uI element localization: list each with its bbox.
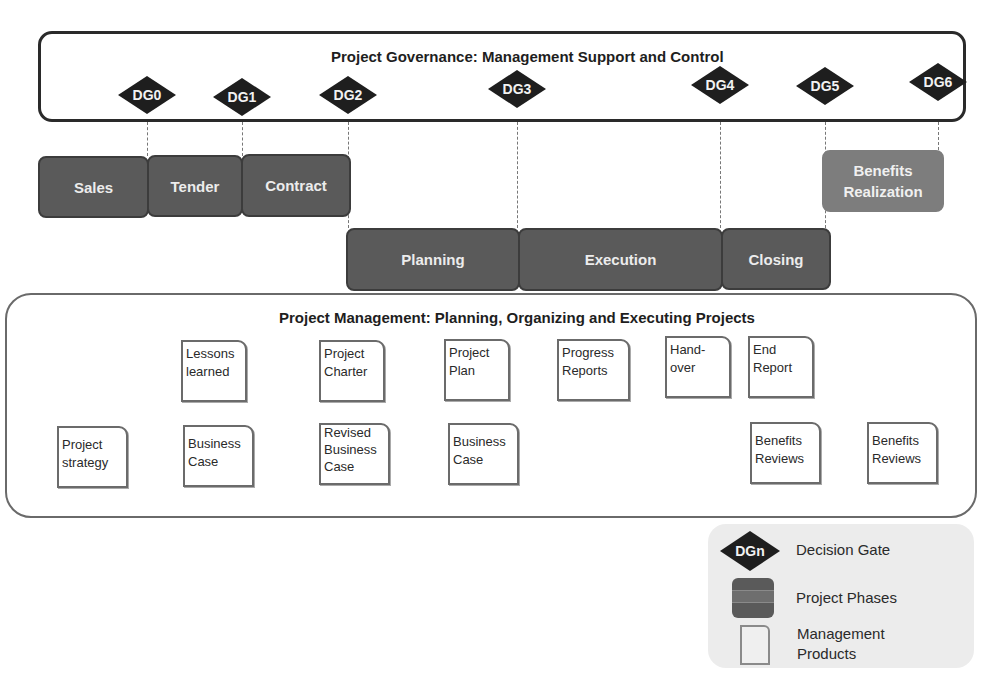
- phase-label: Sales: [74, 177, 113, 198]
- decision-gate-dg1: DG1: [213, 78, 271, 116]
- legend-project-phases-symbol: [732, 578, 774, 618]
- phase-label: Execution: [585, 249, 657, 270]
- phase-label: Closing: [749, 249, 804, 270]
- product-progress-reports: ProgressReports: [557, 339, 630, 401]
- decision-gate-dg4: DG4: [691, 66, 749, 104]
- gate-connector-dg1: [242, 122, 243, 156]
- legend-management-products-symbol: [740, 625, 770, 665]
- gate-label: DG3: [488, 70, 546, 108]
- legend-decision-gate-symbol: DGn: [720, 531, 780, 571]
- product-project-charter: ProjectCharter: [319, 340, 385, 402]
- gate-label: DG4: [691, 66, 749, 104]
- product-lessons-learned: Lessonslearned: [181, 340, 247, 402]
- gate-connector-dg3: [517, 122, 518, 228]
- legend-decision-gate-label: Decision Gate: [796, 540, 890, 560]
- phase-label: Tender: [171, 176, 220, 197]
- product-project-plan: ProjectPlan: [444, 339, 510, 401]
- product-end-report: EndReport: [748, 336, 814, 398]
- decision-gate-dg0: DG0: [118, 76, 176, 114]
- decision-gate-dg3: DG3: [488, 70, 546, 108]
- product-benefits-reviews-2: BenefitsReviews: [867, 422, 938, 484]
- governance-title: Project Governance: Management Support a…: [331, 48, 724, 65]
- legend-project-phases-label: Project Phases: [796, 588, 897, 608]
- phase-benefits-realization: BenefitsRealization: [822, 150, 944, 212]
- project-management-title: Project Management: Planning, Organizing…: [279, 309, 755, 326]
- gate-label: DGn: [720, 531, 780, 571]
- phase-contract: Contract: [241, 154, 351, 217]
- product-project-strategy: Projectstrategy: [57, 426, 128, 488]
- gate-connector-dg0: [147, 122, 148, 156]
- gate-label: DG2: [319, 76, 377, 114]
- gate-label: DG5: [796, 67, 854, 105]
- phase-planning: Planning: [346, 228, 520, 291]
- gate-label: DG1: [213, 78, 271, 116]
- gate-label: DG6: [909, 63, 967, 101]
- phase-closing: Closing: [721, 228, 831, 290]
- product-benefits-reviews-1: BenefitsReviews: [750, 422, 821, 484]
- product-business-case-1: BusinessCase: [183, 425, 254, 487]
- product-hand-over: Hand-over: [665, 336, 731, 398]
- decision-gate-dg6: DG6: [909, 63, 967, 101]
- legend-management-products-label: ManagementProducts: [797, 624, 885, 663]
- phase-label: Contract: [265, 175, 327, 196]
- decision-gate-dg5: DG5: [796, 67, 854, 105]
- product-business-case-2: BusinessCase: [448, 423, 519, 485]
- phase-label: BenefitsRealization: [843, 160, 922, 202]
- product-revised-business-case: RevisedBusinessCase: [319, 423, 390, 485]
- gate-label: DG0: [118, 76, 176, 114]
- phase-label: Planning: [401, 249, 464, 270]
- phase-tender: Tender: [147, 155, 243, 217]
- gate-connector-dg6: [938, 122, 939, 150]
- gate-connector-dg4: [720, 122, 721, 228]
- decision-gate-dg2: DG2: [319, 76, 377, 114]
- phase-execution: Execution: [518, 228, 723, 291]
- phase-sales: Sales: [38, 156, 149, 218]
